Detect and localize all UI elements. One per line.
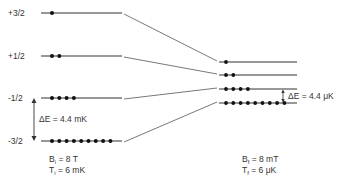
level-connector-line bbox=[124, 57, 217, 74]
population-dot bbox=[231, 73, 235, 77]
left-energy-gap-label: ΔE = 4.4 mK bbox=[39, 115, 87, 124]
final-field-label: Bf = 8 mT bbox=[242, 155, 278, 165]
initial-field-label: Bi = 8 T bbox=[49, 155, 78, 165]
population-dot bbox=[101, 139, 105, 143]
population-dot bbox=[261, 101, 265, 105]
population-dot bbox=[65, 139, 69, 143]
population-dot bbox=[72, 139, 76, 143]
population-dot bbox=[50, 11, 54, 15]
population-dot bbox=[79, 139, 83, 143]
population-dot bbox=[87, 139, 91, 143]
arrow-head-down-icon bbox=[32, 136, 37, 141]
population-dot bbox=[275, 101, 279, 105]
population-dot bbox=[268, 101, 272, 105]
population-dot bbox=[108, 139, 112, 143]
population-dot bbox=[57, 54, 61, 58]
arrow-head-up-icon bbox=[281, 90, 284, 94]
population-dot bbox=[239, 101, 243, 105]
population-dot bbox=[253, 101, 257, 105]
population-dot bbox=[246, 87, 250, 91]
arrow-head-up-icon bbox=[32, 98, 37, 103]
population-dot bbox=[50, 96, 54, 100]
population-dot bbox=[231, 87, 235, 91]
initial-temperature-label: Ti = 6 mK bbox=[49, 166, 85, 176]
population-dot bbox=[224, 73, 228, 77]
population-dot bbox=[224, 60, 228, 64]
level-label-plus-1-2: +1/2 bbox=[8, 52, 25, 61]
population-dot bbox=[57, 139, 61, 143]
population-dot bbox=[50, 54, 54, 58]
level-connector-line bbox=[124, 88, 217, 99]
level-label-minus-3-2: -3/2 bbox=[8, 137, 23, 146]
population-dot bbox=[239, 87, 243, 91]
level-connector-line bbox=[124, 102, 217, 142]
right-energy-gap-label: ΔE = 4.4 μK bbox=[288, 92, 334, 101]
population-dot bbox=[50, 139, 54, 143]
final-temperature-label: Tf = 6 μK bbox=[242, 166, 276, 176]
level-connector-line bbox=[124, 14, 217, 61]
population-dot bbox=[246, 101, 250, 105]
population-dot bbox=[65, 96, 69, 100]
population-dot bbox=[224, 87, 228, 91]
level-label-plus-3-2: +3/2 bbox=[8, 9, 25, 18]
level-label-minus-1-2: -1/2 bbox=[8, 94, 23, 103]
population-dot bbox=[57, 96, 61, 100]
population-dot bbox=[231, 101, 235, 105]
population-dot bbox=[94, 139, 98, 143]
population-dot bbox=[72, 96, 76, 100]
population-dot bbox=[224, 101, 228, 105]
zeeman-level-diagram: +3/2 +1/2 -1/2 -3/2 ΔE = 4.4 mK ΔE = 4.4… bbox=[0, 0, 341, 182]
